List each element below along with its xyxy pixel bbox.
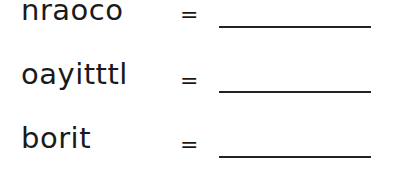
word-row: oayitttl =: [0, 64, 394, 104]
scrambled-word: nraoco: [21, 0, 124, 25]
scrambled-word: oayitttl: [21, 60, 128, 89]
answer-blank[interactable]: [219, 26, 371, 28]
equals-sign: =: [180, 4, 198, 26]
word-row: borit =: [0, 128, 394, 168]
scrambled-word: borit: [21, 124, 91, 153]
word-row: nraoco =: [0, 0, 394, 40]
equals-sign: =: [180, 70, 198, 92]
answer-blank[interactable]: [219, 91, 371, 93]
answer-blank[interactable]: [219, 156, 371, 158]
equals-sign: =: [180, 134, 198, 156]
